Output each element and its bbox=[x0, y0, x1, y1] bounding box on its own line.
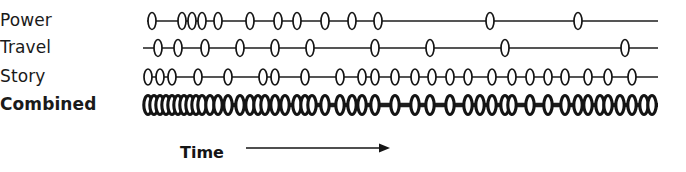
timeline-row-travel bbox=[143, 40, 658, 57]
event-marker bbox=[488, 96, 496, 115]
event-marker bbox=[544, 96, 552, 115]
event-marker bbox=[168, 69, 176, 85]
event-marker bbox=[358, 96, 366, 115]
event-marker bbox=[246, 13, 254, 30]
event-marker bbox=[348, 96, 356, 115]
event-marker bbox=[236, 40, 244, 57]
event-marker bbox=[464, 96, 472, 115]
timelines-plot bbox=[0, 0, 686, 172]
event-marker bbox=[308, 96, 316, 115]
timeline-row-story bbox=[144, 69, 658, 85]
event-marker bbox=[501, 40, 509, 57]
event-marker bbox=[616, 96, 624, 115]
event-marker bbox=[274, 13, 282, 30]
event-marker bbox=[371, 40, 379, 57]
event-marker bbox=[144, 69, 152, 85]
event-marker bbox=[156, 69, 164, 85]
event-marker bbox=[428, 69, 436, 85]
event-marker bbox=[488, 69, 496, 85]
event-marker bbox=[584, 96, 592, 115]
event-marker bbox=[584, 69, 592, 85]
time-axis-caption: Time bbox=[180, 143, 224, 162]
event-marker bbox=[621, 40, 629, 57]
event-marker bbox=[259, 69, 267, 85]
event-marker bbox=[526, 96, 534, 115]
event-marker bbox=[604, 69, 612, 85]
event-marker bbox=[236, 96, 244, 115]
event-marker bbox=[574, 13, 582, 30]
event-marker bbox=[148, 13, 156, 30]
event-marker bbox=[604, 96, 612, 115]
event-marker bbox=[561, 96, 569, 115]
event-timeline-figure: Power Travel Story Combined Time bbox=[0, 0, 686, 172]
event-marker bbox=[201, 40, 209, 57]
event-marker bbox=[214, 13, 222, 30]
event-marker bbox=[293, 13, 301, 30]
event-marker bbox=[391, 96, 399, 115]
event-marker bbox=[154, 40, 162, 57]
event-marker bbox=[628, 96, 636, 115]
event-marker bbox=[271, 69, 279, 85]
event-marker bbox=[194, 69, 202, 85]
event-marker bbox=[544, 69, 552, 85]
event-marker bbox=[508, 69, 516, 85]
event-marker bbox=[301, 69, 309, 85]
event-marker bbox=[321, 96, 329, 115]
event-marker bbox=[411, 96, 419, 115]
event-marker bbox=[271, 96, 279, 115]
event-marker bbox=[224, 96, 232, 115]
event-marker bbox=[281, 96, 289, 115]
event-marker bbox=[371, 96, 379, 115]
event-marker bbox=[336, 69, 344, 85]
event-marker bbox=[348, 13, 356, 30]
event-marker bbox=[426, 96, 434, 115]
event-marker bbox=[358, 69, 366, 85]
event-marker bbox=[224, 69, 232, 85]
event-marker bbox=[464, 69, 472, 85]
event-marker bbox=[476, 96, 484, 115]
event-marker bbox=[628, 69, 636, 85]
event-marker bbox=[508, 96, 516, 115]
event-marker bbox=[261, 96, 269, 115]
event-marker bbox=[411, 69, 419, 85]
event-marker bbox=[446, 96, 454, 115]
event-marker bbox=[321, 13, 329, 30]
event-marker bbox=[374, 13, 382, 30]
event-marker bbox=[574, 96, 582, 115]
time-arrow-head-icon bbox=[379, 143, 390, 152]
event-marker bbox=[486, 13, 494, 30]
event-marker bbox=[561, 69, 569, 85]
event-marker bbox=[371, 69, 379, 85]
event-marker bbox=[198, 13, 206, 30]
event-marker bbox=[214, 96, 222, 115]
event-marker bbox=[446, 69, 454, 85]
event-marker bbox=[648, 96, 656, 115]
event-marker bbox=[271, 40, 279, 57]
event-marker bbox=[526, 69, 534, 85]
timeline-row-power bbox=[147, 13, 658, 30]
event-marker bbox=[188, 13, 196, 30]
event-marker bbox=[336, 96, 344, 115]
event-marker bbox=[174, 40, 182, 57]
timeline-row-combined bbox=[144, 96, 658, 115]
event-marker bbox=[426, 40, 434, 57]
event-marker bbox=[391, 69, 399, 85]
event-marker bbox=[178, 13, 186, 30]
event-marker bbox=[306, 40, 314, 57]
